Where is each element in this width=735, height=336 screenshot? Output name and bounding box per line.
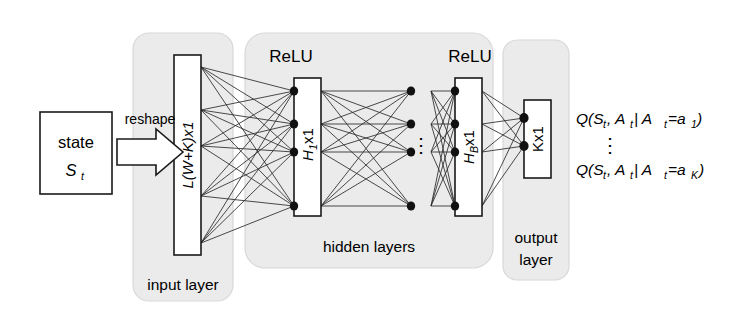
- hidden-layers-caption: hidden layers: [323, 238, 415, 255]
- reshape-label: reshape: [125, 111, 176, 127]
- q-first-mid: , A: [607, 110, 625, 127]
- q-value-last: Q(S t , A t | A t =a K ): [576, 161, 704, 181]
- q-last-eq: =a: [668, 161, 686, 178]
- q-last-head: Q(S: [576, 161, 604, 178]
- relu-label-first: ReLU: [269, 47, 312, 66]
- q-first-eq: =a: [668, 110, 686, 127]
- q-first-sub4: 1: [691, 118, 697, 130]
- state-label: state: [58, 133, 94, 151]
- output-layer-caption-line1: output: [514, 229, 558, 246]
- input-layer-caption: input layer: [147, 276, 219, 293]
- hiddenB-vector-label-main: H: [460, 153, 477, 164]
- q-first-bar: | A: [634, 110, 652, 127]
- q-last-mid: , A: [607, 161, 625, 178]
- q-value-first: Q(S t , A t | A t =a 1 ): [576, 110, 702, 130]
- relu-label-last: ReLU: [448, 47, 491, 66]
- hidden1-vector-label-main: H: [299, 150, 316, 161]
- hiddenB-vector-label-tail: x1: [460, 130, 477, 146]
- q-last-bar: | A: [634, 161, 652, 178]
- q-first-close: ): [695, 110, 702, 127]
- output-layer-caption-line2: layer: [519, 251, 553, 268]
- state-symbol: S: [65, 161, 76, 179]
- hidden1-vector-label-sub: 1: [307, 144, 319, 150]
- input-vector-label: L(W+K)x1: [179, 121, 196, 188]
- hidden1-vector-label-tail: x1: [299, 128, 316, 144]
- q-first-head: Q(S: [576, 110, 604, 127]
- hidden-layers-ellipsis: ⋮: [411, 134, 431, 156]
- hiddenB-vector-label-sub: B: [468, 146, 480, 153]
- q-values-ellipsis: ⋮: [600, 134, 620, 156]
- network-diagram: state S t reshape L(W+K)x1 input layer R…: [0, 0, 735, 336]
- q-last-sub4: K: [691, 169, 699, 181]
- q-last-close: ): [697, 161, 704, 178]
- figure-canvas: state S t reshape L(W+K)x1 input layer R…: [0, 0, 735, 336]
- state-box: [40, 112, 112, 194]
- output-vector-label: Kx1: [529, 126, 546, 152]
